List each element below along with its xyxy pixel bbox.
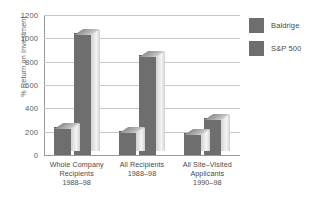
y-axis-tick-labels: 020040060080010001200 xyxy=(0,15,41,155)
legend-label: S&P 500 xyxy=(271,44,301,53)
category-label-line: 1990–98 xyxy=(165,178,250,187)
category-label-line: 1988–98 xyxy=(34,178,119,187)
gridline xyxy=(44,155,240,156)
bars-layer xyxy=(44,15,240,155)
bar-chart: % Return on Investment 02004006008001000… xyxy=(0,0,311,203)
category-label-line: Applicants xyxy=(165,169,250,178)
bar-baldrige-group-2 xyxy=(119,132,136,155)
bar-front-face xyxy=(184,133,201,155)
x-axis-category-labels: Whole CompanyRecipients1988–98All Recipi… xyxy=(44,160,240,200)
y-axis-tick-label: 0 xyxy=(34,151,38,160)
y-axis-tick-label: 1200 xyxy=(21,11,38,20)
bar-side-face xyxy=(156,52,165,151)
bar-front-face xyxy=(119,131,136,155)
legend-label: Baldrige xyxy=(271,21,299,30)
category-label-line: All Site–Visited xyxy=(165,160,250,169)
legend-item[interactable]: Baldrige xyxy=(249,18,301,33)
bar-baldrige-group-3 xyxy=(184,134,201,155)
legend-swatch xyxy=(249,18,264,33)
y-axis-tick-label: 200 xyxy=(25,127,38,136)
bar-side-face xyxy=(221,115,230,151)
bar-baldrige-group-1 xyxy=(54,128,71,155)
plot-area xyxy=(44,15,240,155)
legend-swatch xyxy=(249,41,264,56)
x-axis-category-label: All Site–VisitedApplicants1990–98 xyxy=(165,160,250,187)
legend-item[interactable]: S&P 500 xyxy=(249,41,301,56)
y-axis-tick-label: 1000 xyxy=(21,34,38,43)
y-axis-tick-label: 800 xyxy=(25,57,38,66)
bar-side-face xyxy=(91,30,100,151)
y-axis-tick-label: 400 xyxy=(25,104,38,113)
legend: BaldrigeS&P 500 xyxy=(249,18,301,64)
bar-front-face xyxy=(54,127,71,155)
y-axis-tick-label: 600 xyxy=(25,81,38,90)
